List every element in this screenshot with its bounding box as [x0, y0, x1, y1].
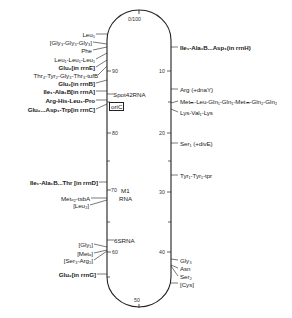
terminus-marker-label: 50 — [134, 297, 140, 303]
minute-tick-70: 70 — [111, 187, 117, 193]
origin-marker-label: 0/100 — [128, 16, 141, 22]
gene-label-left: [Gly₁] — [78, 241, 93, 248]
gene-label-left-rrnC: Glu₂...Asp₁-Trp[in rrnC] — [28, 106, 95, 113]
gene-label-left: Thr₄-Tyr₂-Gly₃-Thr₃-tufB — [34, 72, 98, 79]
m1-rna-label-line1: M1 — [121, 187, 130, 194]
gene-label-right: Metₘ-Leu-Gln₁-Gln₁-Metₘ-Gln₂-Gln₂ — [180, 98, 277, 105]
gene-label-left-rrnE: Glu₂[in rrnE] — [59, 64, 95, 71]
spot42-rna-label: Spot42RNA — [113, 91, 146, 98]
chromosome-map-diagram: 0/100 50 90 80 70 60 10 20 30 40 Spot42R… — [0, 0, 292, 318]
gene-label-right: Asn — [180, 265, 191, 272]
minute-tick-60: 60 — [112, 249, 118, 255]
gene-label-left-rrnB: Glu₂[in rrnB] — [58, 80, 95, 87]
oric-label: oriC — [109, 102, 124, 111]
gene-label-left: Leu₅ — [82, 31, 95, 38]
gene-label-left: Leu₁-Leu₁-Leu₁ — [54, 56, 95, 63]
gene-label-right: Lys-Val₁-Lys — [180, 109, 213, 116]
gene-label-left-rrnA: Ile₁-Ala₁B[in rrnA] — [43, 88, 95, 95]
minute-tick-10: 10 — [159, 68, 165, 74]
gene-label-right: Ser₂ — [180, 273, 192, 280]
gene-label-left: [Ser₃-Arg₂] — [64, 257, 93, 264]
gene-label-left: [Leu₂] — [73, 202, 89, 209]
gene-label-right: [Cys] — [180, 281, 194, 288]
gene-label-right: Tyr₁-Tyr₁-tpr — [180, 172, 212, 179]
minute-tick-30: 30 — [159, 189, 165, 195]
gene-label-right: Arg (+dnaY) — [180, 86, 213, 93]
6s-rna-label: 6SRNA — [114, 237, 135, 244]
gene-label-left: [Gly₃-Gly₃-Gly₃] — [50, 39, 92, 46]
minute-tick-80: 80 — [112, 130, 118, 136]
gene-label-left: Phe — [81, 47, 92, 54]
minute-tick-20: 20 — [159, 130, 165, 136]
gene-label-right: Gly₃ — [180, 257, 192, 264]
gene-label-left: [Metₒ] — [77, 250, 93, 257]
gene-label-left: Arg-His-Leu₁-Pro — [45, 97, 95, 104]
minute-tick-40: 40 — [159, 249, 165, 255]
gene-label-right: Ser₁ (+divE) — [180, 140, 213, 147]
gene-label-left-rrnG: Glu₂[in rrnG] — [59, 271, 96, 278]
gene-label-left: Metₒ₂-tsbA — [61, 195, 90, 202]
gene-label-right-rrnH: Ile₁-Ala₁B...Asp₁(in rrnH) — [180, 44, 251, 51]
minute-tick-90: 90 — [112, 68, 118, 74]
m1-rna-label-line2: RNA — [119, 195, 132, 202]
gene-label-left-rrnD: Ile₁-Ala₁B...Thr [in rrnD] — [30, 179, 98, 186]
